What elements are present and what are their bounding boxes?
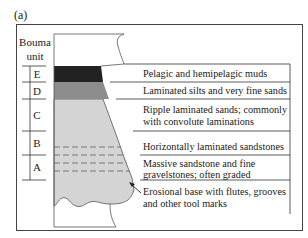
desc-base-line1: Erosional base with flutes, grooves [143,186,286,197]
unit-label-d: D [33,85,41,97]
sand-bed [54,99,134,207]
unit-label-e: E [34,68,41,80]
unit-label-c: C [33,109,40,121]
desc-unit-c-line1: Ripple laminated sands; commonly [143,104,288,115]
unit-label-b: B [33,137,40,149]
desc-unit-b: Horizontally laminated sandstones [143,141,284,152]
unit-e-layer [54,66,103,82]
desc-unit-e: Pelagic and hemipelagic muds [143,68,267,79]
desc-base-line2: and other tool marks [143,198,227,209]
bouma-sequence-diagram: Bouma unit E D C B A Pela [0,0,308,238]
desc-unit-a-line2: gravelstones; often graded [143,169,251,180]
desc-unit-d: Laminated silts and very fine sands [143,85,287,96]
unit-header-line1: Bouma [19,36,51,48]
unit-label-a: A [33,161,41,173]
unit-d-layer [54,82,109,99]
desc-unit-a-line1: Massive sandstone and fine [143,158,256,169]
upper-outline [54,34,124,66]
unit-header-line2: unit [26,50,43,62]
lower-outline [54,204,116,227]
desc-unit-c-line2: with convolute laminations [143,116,254,127]
